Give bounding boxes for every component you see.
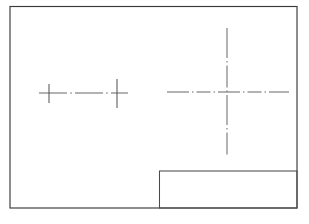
drawing-canvas bbox=[0, 0, 309, 224]
drawing-border-frame bbox=[10, 7, 297, 209]
title-block bbox=[160, 171, 298, 208]
drawing-sheet bbox=[0, 0, 309, 224]
